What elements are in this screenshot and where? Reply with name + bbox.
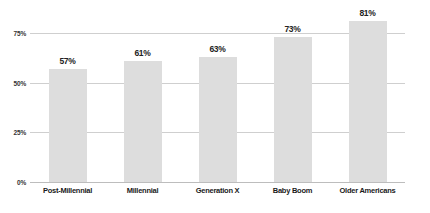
category-label: Millennial [105,186,180,195]
x-axis-category-labels: Post-MillennialMillennialGeneration XBab… [30,186,405,204]
bar-group: 61% [124,8,162,182]
category-label: Older Americans [330,186,405,195]
bar [274,37,312,182]
bar-group: 81% [349,8,387,182]
bar-group: 73% [274,8,312,182]
bar [349,21,387,182]
category-label: Post-Millennial [30,186,105,195]
bar-value-label: 61% [124,48,162,58]
bar-group: 57% [49,8,87,182]
plot-area: 57%61%63%73%81% [30,8,405,182]
bar-group: 63% [199,8,237,182]
gridline-0pct [30,182,405,183]
bar-value-label: 81% [349,8,387,18]
y-tick-label: 0% [17,179,26,186]
bar-value-label: 57% [49,56,87,66]
category-label: Baby Boom [255,186,330,195]
bars-layer: 57%61%63%73%81% [30,8,405,182]
bar [124,61,162,182]
bar-value-label: 63% [199,44,237,54]
y-axis-tick-labels: 0%25%50%75% [0,8,26,182]
bar [49,69,87,182]
y-tick-label: 50% [14,79,26,86]
bar [199,57,237,182]
y-tick-label: 75% [14,29,26,36]
bar-value-label: 73% [274,24,312,34]
bar-chart: 0%25%50%75% 57%61%63%73%81% Post-Millenn… [0,0,430,213]
y-tick-label: 25% [14,129,26,136]
category-label: Generation X [180,186,255,195]
